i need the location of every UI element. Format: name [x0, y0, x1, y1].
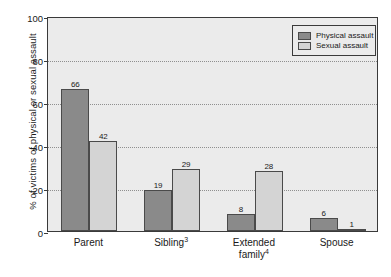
bar-physical-spouse: 6 — [310, 218, 338, 231]
y-axis-tick-label: 0 — [38, 228, 43, 239]
bar-value-label: 28 — [264, 162, 273, 171]
y-axis-title: % of victims of physical or sexual assau… — [27, 12, 38, 232]
gridline — [48, 61, 377, 62]
y-axis-tick-mark — [44, 18, 48, 19]
bar-physical-parent: 66 — [61, 89, 89, 231]
y-axis-tick-mark — [44, 104, 48, 105]
legend-swatch-physical-assault — [298, 32, 311, 40]
bar-value-label: 66 — [71, 80, 80, 89]
legend-item-physical-assault: Physical assault — [298, 31, 371, 40]
x-axis-label-extended-family: Extendedfamily4 — [213, 237, 296, 260]
footnote-marker: 4 — [265, 247, 269, 254]
y-axis-tick-label: 100 — [27, 13, 43, 24]
bar-value-label: 19 — [154, 181, 163, 190]
y-axis-tick-mark — [44, 61, 48, 62]
x-axis-label-parent: Parent — [47, 237, 130, 249]
legend-item-sexual-assault: Sexual assault — [298, 41, 371, 50]
y-axis-tick-mark — [44, 147, 48, 148]
bar-chart: % of victims of physical or sexual assau… — [0, 0, 391, 277]
gridline — [48, 104, 377, 105]
y-axis-tick-label: 60 — [32, 99, 43, 110]
bar-value-label: 29 — [182, 160, 191, 169]
bar-value-label: 1 — [349, 220, 353, 229]
bar-physical-sibling3: 19 — [144, 190, 172, 231]
y-axis-tick-label: 80 — [32, 56, 43, 67]
y-axis-tick-mark — [44, 190, 48, 191]
y-axis-tick-label: 40 — [32, 142, 43, 153]
bar-value-label: 6 — [321, 209, 325, 218]
legend-label-physical-assault: Physical assault — [316, 31, 373, 40]
legend: Physical assault Sexual assault — [292, 25, 376, 56]
y-axis-tick-mark — [44, 233, 48, 234]
bar-sexual-extended-family4: 28 — [255, 171, 283, 231]
bar-physical-extended-family4: 8 — [227, 214, 255, 231]
bar-sexual-parent: 42 — [89, 141, 117, 231]
x-axis-label-spouse: Spouse — [295, 237, 378, 249]
footnote-marker: 3 — [184, 236, 188, 243]
bar-sexual-spouse: 1 — [338, 229, 366, 231]
bar-value-label: 42 — [99, 132, 108, 141]
x-axis-label-sibling: Sibling3 — [130, 237, 213, 249]
bar-value-label: 8 — [239, 205, 243, 214]
y-axis-tick-label: 20 — [32, 185, 43, 196]
bar-sexual-sibling3: 29 — [172, 169, 200, 231]
legend-label-sexual-assault: Sexual assault — [316, 41, 368, 50]
legend-swatch-sexual-assault — [298, 42, 311, 50]
